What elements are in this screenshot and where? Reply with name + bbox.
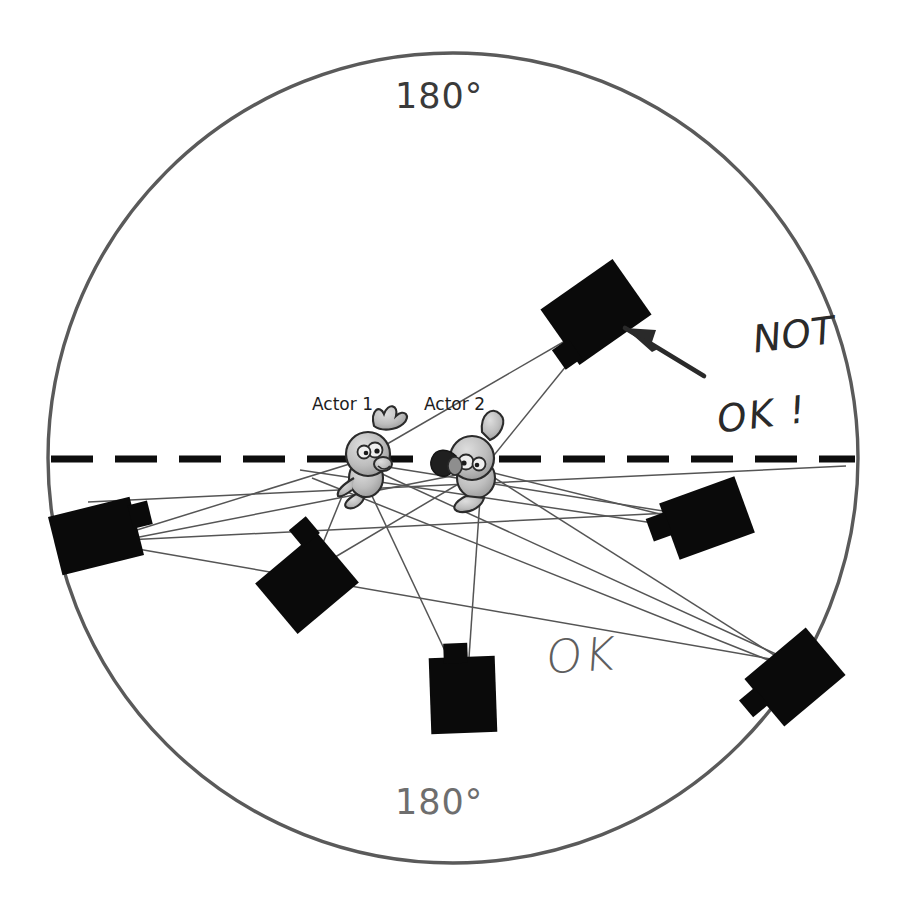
actor-1-label: Actor 1 (312, 394, 373, 414)
top-180-degree-label: 180° (395, 76, 483, 116)
bottom-180-degree-label: 180° (395, 782, 483, 822)
not-ok-zone-label: NOT OK ! (696, 274, 837, 516)
not-ok-label-line2: OK ! (716, 387, 831, 439)
not-ok-label-line1: NOT (752, 308, 835, 363)
ok-zone-label: OK (544, 626, 618, 684)
diagram-canvas: 180° 180° Actor 1 Actor 2 OK NOT OK ! (0, 0, 902, 914)
actor-2-label: Actor 2 (424, 394, 485, 414)
